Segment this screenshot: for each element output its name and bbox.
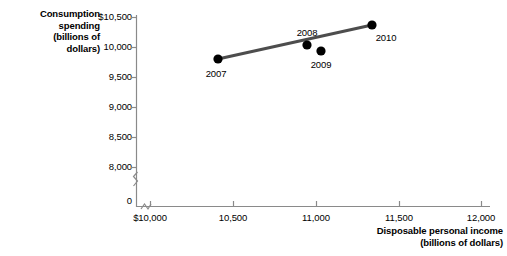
data-point-2007 [213,54,222,63]
scatter-plot-figure: Consumption spending (billions of dollar… [0,0,507,256]
x-axis-break-icon [141,204,151,209]
y-axis-ticks [131,18,137,168]
x-axis-ticks [151,201,482,207]
plot-canvas [0,0,507,256]
data-point-2010 [367,20,376,29]
data-point-2009 [316,46,325,55]
data-point-2008 [302,40,311,49]
trend-line [218,25,372,59]
